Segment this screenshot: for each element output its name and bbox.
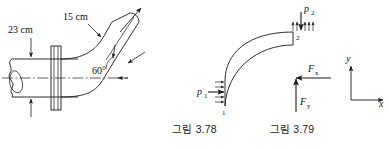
figure-3-79-drawing: p 1 1 p 2 2 F x F y <box>195 0 389 125</box>
elbow-outer-wall <box>225 32 293 81</box>
p2-label: p <box>303 3 309 14</box>
outflow-arrow <box>120 8 141 32</box>
p1-subscript: 1 <box>204 92 208 100</box>
station-2-label: 2 <box>296 34 300 42</box>
outlet-diameter-arrow <box>88 24 101 37</box>
elbow-inner-wall <box>225 45 293 106</box>
fy-subscript: y <box>307 102 311 110</box>
figure-3-78-drawing: 23 cm 15 cm 60° <box>0 0 195 125</box>
figure-3-79-caption: 그림 3.79 <box>195 121 389 136</box>
outlet-pipe-upper-edge <box>112 13 130 22</box>
fx-label: F <box>307 63 315 74</box>
p2-subscript: 2 <box>311 9 315 17</box>
station-1-label: 1 <box>222 109 226 117</box>
inlet-diameter-label: 23 cm <box>8 24 33 35</box>
outlet-pipe-lower-edge <box>118 22 139 55</box>
fy-label: F <box>299 96 307 107</box>
p1-label: p <box>196 86 202 97</box>
figure-sheet: 23 cm 15 cm 60° <box>0 0 389 149</box>
outlet-diameter-label: 15 cm <box>63 11 88 22</box>
outlet-pipe-axis-line <box>106 17 134 60</box>
fx-subscript: x <box>315 69 319 77</box>
bend-inner-wall <box>61 55 118 97</box>
outlet-section-pointer <box>128 52 145 63</box>
bend-angle-label: 60° <box>92 65 106 76</box>
y-axis-label: y <box>345 53 351 64</box>
x-axis-label: x <box>378 98 384 109</box>
bend-outer-wall <box>61 22 112 59</box>
angle-leader-vertical <box>113 45 115 58</box>
